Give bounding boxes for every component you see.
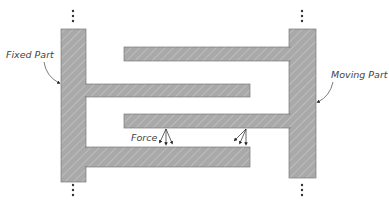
moving-finger-1 [124, 47, 290, 61]
fixed-finger-2 [86, 147, 250, 167]
force-label: Force [131, 132, 157, 143]
continuation-dots [72, 10, 303, 196]
fixed-finger-1 [86, 84, 250, 97]
comb-drive-diagram: Fixed Part Moving Part Force [0, 0, 389, 203]
force-arrows-left [160, 129, 172, 144]
moving-finger-2 [124, 114, 290, 128]
fixed-part-pointer [44, 62, 59, 83]
moving-part-pointer [318, 82, 333, 102]
moving-part-label: Moving Part [331, 69, 389, 80]
fixed-part-label: Fixed Part [6, 49, 55, 60]
force-arrows-right [235, 129, 246, 144]
